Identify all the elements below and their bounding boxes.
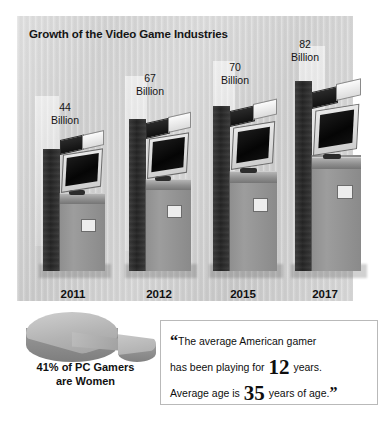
year-text: 2017 xyxy=(312,288,338,300)
quote-line-2: has been playing for 12 years. xyxy=(170,354,368,380)
cabinet-2015 xyxy=(213,106,277,271)
cabinet-marquee-light xyxy=(253,98,277,120)
bar-unit: Billion xyxy=(120,85,180,98)
quote-line-3: Average age is 35 years of age.” xyxy=(170,380,368,406)
cabinet-screen xyxy=(147,132,189,179)
cabinet-screen xyxy=(313,104,359,156)
cabinet-front-body xyxy=(311,155,361,271)
cabinet-front-body xyxy=(229,171,277,271)
bar-year-label: 2015 xyxy=(213,288,273,300)
cabinet-marquee-light xyxy=(336,78,361,101)
cabinet-side-panel xyxy=(213,106,230,271)
chart-panel: Growth of the Video Game Industries 44 B… xyxy=(17,16,353,301)
cabinet-coin-slot xyxy=(81,219,96,232)
cabinet-screen-glass xyxy=(236,126,270,163)
cabinet-joystick xyxy=(323,154,341,159)
bar-value: 82 xyxy=(275,38,335,51)
cabinet-screen-glass xyxy=(318,109,354,148)
bar-value: 67 xyxy=(120,72,180,85)
bar-value-label: 70 Billion xyxy=(205,61,265,86)
quote-open-mark: “ xyxy=(170,332,178,349)
quote-line3-suffix: years of age. xyxy=(269,387,330,399)
quote-box: “The average American gamer has been pla… xyxy=(160,320,378,405)
cabinet-joystick xyxy=(240,168,257,173)
cabinet-coin-slot xyxy=(337,185,353,199)
bar-value-label: 44 Billion xyxy=(35,101,95,126)
cabinet-marquee-dark xyxy=(312,86,338,109)
cabinet-2017 xyxy=(295,81,361,271)
cabinet-2012 xyxy=(129,119,191,271)
cabinet-screen-glass xyxy=(152,137,185,172)
quote-line2-prefix: has been playing for xyxy=(170,361,265,373)
cabinet-2011 xyxy=(43,149,105,271)
bar-year-label: 2011 xyxy=(43,288,103,300)
infographic-root: Growth of the Video Game Industries 44 B… xyxy=(0,0,389,430)
bar-unit: Billion xyxy=(205,74,265,87)
quote-line2-suffix: years. xyxy=(293,361,322,373)
cabinet-screen xyxy=(231,121,275,170)
pie-caption-line2: are Women xyxy=(56,375,115,387)
cabinet-screen xyxy=(61,148,103,193)
cabinet-screen-glass xyxy=(66,153,99,186)
cabinet-side-panel xyxy=(295,81,312,271)
bar-year-label: 2017 xyxy=(295,288,355,300)
cabinet-side-panel xyxy=(129,119,146,271)
cabinet-marquee-light xyxy=(168,112,191,133)
bar-year-label: 2012 xyxy=(129,288,189,300)
quote-line3-prefix: Average age is xyxy=(170,387,240,399)
bar-value: 70 xyxy=(205,61,265,74)
bar-value: 44 xyxy=(35,101,95,114)
bar-value-label: 67 Billion xyxy=(120,72,180,97)
cabinet-coin-slot xyxy=(253,198,268,212)
cabinet-marquee-light xyxy=(82,130,104,150)
year-text: 2011 xyxy=(61,288,86,300)
bar-value-label: 82 Billion xyxy=(275,38,335,63)
quote-average-age: 35 xyxy=(243,381,266,405)
cabinet-side-panel xyxy=(43,149,60,271)
year-text: 2015 xyxy=(230,288,256,300)
bar-unit: Billion xyxy=(35,114,95,127)
quote-line1-text: The average American gamer xyxy=(178,335,316,347)
cabinet-coin-slot xyxy=(167,205,182,218)
year-text: 2012 xyxy=(146,288,172,300)
bar-unit: Billion xyxy=(275,51,335,64)
page-title: Growth of the Video Game Industries xyxy=(29,28,228,40)
quote-close-mark: ” xyxy=(329,384,337,401)
pie-chart-caption: 41% of PC Gamers are Women xyxy=(18,360,153,388)
pie-caption-line1: 41% of PC Gamers xyxy=(37,361,135,373)
cabinet-front-body xyxy=(145,179,191,271)
quote-line-1: “The average American gamer xyxy=(170,328,368,354)
quote-years-played: 12 xyxy=(268,355,291,379)
cabinet-front-body xyxy=(59,193,105,271)
